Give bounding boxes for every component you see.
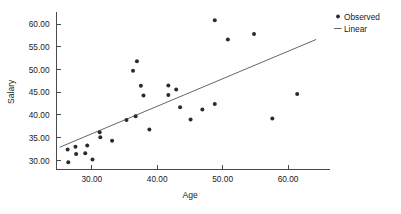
data-point <box>213 18 217 22</box>
data-point <box>270 117 274 121</box>
data-point <box>66 147 70 151</box>
data-point <box>178 105 182 109</box>
data-point <box>83 151 87 155</box>
legend-linear-label: Linear <box>344 24 367 34</box>
data-point <box>74 152 78 156</box>
x-axis-title: Age <box>183 190 199 200</box>
data-point <box>200 107 204 111</box>
data-point <box>110 139 114 143</box>
x-axis-ticks: 30.0040.0050.0060.00 <box>81 165 298 185</box>
data-point <box>73 145 77 149</box>
data-point <box>98 130 102 134</box>
y-tick-label: 55.00 <box>29 42 50 52</box>
x-tick-label: 30.00 <box>81 174 102 184</box>
x-tick-label: 60.00 <box>278 174 299 184</box>
data-point <box>147 127 151 131</box>
y-tick-label: 35.00 <box>29 133 50 143</box>
data-point <box>134 114 138 118</box>
y-tick-label: 30.00 <box>29 156 50 166</box>
y-tick-label: 40.00 <box>29 110 50 120</box>
data-point <box>295 92 299 96</box>
data-point <box>66 160 70 164</box>
data-point <box>135 59 139 63</box>
data-point <box>252 32 256 36</box>
data-point <box>166 93 170 97</box>
legend-observed-marker <box>336 15 340 19</box>
x-tick-label: 50.00 <box>212 174 233 184</box>
data-point <box>85 143 89 147</box>
y-axis-title: Salary <box>6 79 16 104</box>
y-tick-label: 50.00 <box>29 65 50 75</box>
data-point <box>174 87 178 91</box>
data-point <box>139 84 143 88</box>
data-point <box>141 93 145 97</box>
data-point <box>166 83 170 87</box>
data-point <box>189 117 193 121</box>
data-point <box>213 102 217 106</box>
y-tick-label: 45.00 <box>29 87 50 97</box>
legend-observed-label: Observed <box>344 12 380 22</box>
data-point <box>124 118 128 122</box>
data-point <box>98 135 102 139</box>
plot-area: 30.0035.0040.0045.0050.0055.0060.00 30.0… <box>0 0 401 214</box>
observed-data-points <box>66 18 300 164</box>
data-point <box>131 69 135 73</box>
scatter-chart: 30.0035.0040.0045.0050.0055.0060.00 30.0… <box>0 0 401 214</box>
data-point <box>226 37 230 41</box>
y-axis-ticks: 30.0035.0040.0045.0050.0055.0060.00 <box>29 19 61 165</box>
chart-legend: Observed Linear <box>334 12 380 34</box>
y-tick-label: 60.00 <box>29 19 50 29</box>
x-tick-label: 40.00 <box>147 174 168 184</box>
data-point <box>90 157 94 161</box>
